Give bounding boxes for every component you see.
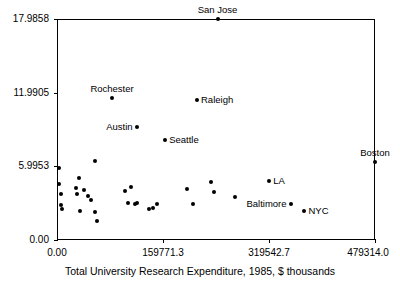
data-point <box>147 207 151 211</box>
point-label: Austin <box>106 122 132 132</box>
x-axis-tick-label: 479314.0 <box>347 248 389 258</box>
data-point <box>60 207 64 211</box>
y-axis-tick <box>54 19 58 20</box>
data-point <box>95 219 99 223</box>
point-label: NYC <box>308 206 328 216</box>
point-label: LA <box>273 176 285 186</box>
data-point-labeled <box>373 160 377 164</box>
y-axis-tick-label: 17.9858 <box>0 14 49 24</box>
data-point <box>93 159 97 163</box>
y-axis-tick-label: 11.9905 <box>0 88 49 98</box>
x-axis-tick <box>375 239 376 243</box>
data-point <box>78 209 82 213</box>
data-point <box>57 166 61 170</box>
x-axis-tick-label: 159771.3 <box>142 248 184 258</box>
point-label: Seattle <box>169 135 199 145</box>
data-point <box>129 185 133 189</box>
data-point-labeled <box>289 202 293 206</box>
point-label: Baltimore <box>246 199 286 209</box>
data-point-labeled <box>110 96 114 100</box>
x-axis-tick <box>269 239 270 243</box>
data-point <box>75 192 79 196</box>
data-point-labeled <box>267 179 271 183</box>
x-axis-tick-label: 319542.7 <box>248 248 290 258</box>
data-point <box>123 189 127 193</box>
data-point-labeled <box>302 209 306 213</box>
x-axis-tick-label: 0.00 <box>47 248 66 258</box>
data-point <box>74 186 78 190</box>
y-axis-tick-label: 0.00 <box>0 235 49 245</box>
point-label: Boston <box>360 148 390 158</box>
data-point <box>82 188 86 192</box>
data-point <box>59 192 63 196</box>
x-axis-tick <box>163 239 164 243</box>
data-point <box>155 202 159 206</box>
data-point <box>126 201 130 205</box>
data-point <box>209 180 213 184</box>
data-point-labeled <box>163 138 167 142</box>
data-point-labeled <box>195 98 199 102</box>
y-axis-tick <box>54 240 58 241</box>
data-point <box>57 182 61 186</box>
scatter-chart-figure: 0.005.995311.990517.9858 0.00159771.3319… <box>0 0 400 294</box>
point-label: Rochester <box>90 84 133 94</box>
data-point <box>93 210 97 214</box>
data-point <box>185 187 189 191</box>
y-axis-tick <box>54 93 58 94</box>
data-point <box>151 206 155 210</box>
data-point-labeled <box>135 125 139 129</box>
data-point <box>212 190 216 194</box>
data-point <box>191 202 195 206</box>
data-point-labeled <box>216 17 220 21</box>
data-point <box>135 201 139 205</box>
point-label: Raleigh <box>201 95 233 105</box>
y-axis-tick-label: 5.9953 <box>0 161 49 171</box>
data-point <box>233 195 237 199</box>
data-point <box>89 198 93 202</box>
x-axis-title: Total University Research Expenditure, 1… <box>0 266 400 277</box>
point-label: San Jose <box>198 4 238 14</box>
data-point <box>77 176 81 180</box>
